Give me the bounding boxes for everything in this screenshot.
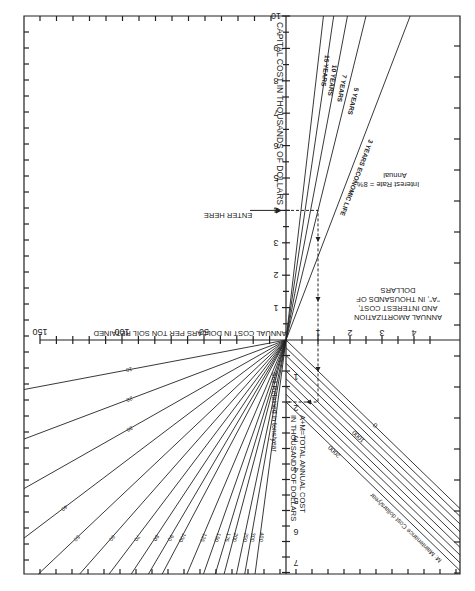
interest-rate-label: Annual bbox=[383, 171, 407, 180]
total-tick-label: 1 bbox=[293, 372, 298, 382]
interest-rate-label: Interest Rate = 8% bbox=[357, 180, 420, 189]
soil-retained-line bbox=[24, 340, 286, 390]
amort-tick-label: 3 bbox=[379, 328, 384, 338]
maintenance-line bbox=[286, 394, 460, 563]
economic-life-label: 5 YEARS bbox=[347, 87, 361, 116]
maintenance-line bbox=[286, 379, 460, 548]
total-tick-label: 6 bbox=[293, 527, 298, 537]
amort-tick-label: 4 bbox=[411, 328, 416, 338]
nomograph-chart: 1234567891012341234567501001503 YEARS EC… bbox=[0, 0, 475, 591]
economic-life-label: 7 YEARS bbox=[336, 74, 348, 103]
total-cost-axis-title: IN THOUSANDS OF DOLLARS bbox=[289, 415, 298, 521]
soil-retained-label: 175 bbox=[224, 532, 232, 543]
maintenance-line bbox=[286, 348, 460, 517]
capital-tick-label: 10 bbox=[271, 11, 281, 21]
soil-retained-axis-label: Soil Retained in tons/year bbox=[270, 372, 278, 452]
capital-tick-label: 2 bbox=[273, 270, 278, 280]
soil-retained-label: 150 bbox=[213, 532, 222, 543]
cost-per-ton-axis-title: ANNUAL COST IN DOLLARS PER TON SOIL RETA… bbox=[93, 329, 287, 338]
maintenance-line bbox=[286, 387, 460, 556]
amortization-axis-title: AND INTEREST COST, bbox=[358, 304, 437, 313]
amortization-axis-title: DOLLARS bbox=[380, 286, 415, 295]
amort-tick-label: 2 bbox=[347, 328, 352, 338]
capital-tick-label: 3 bbox=[273, 238, 278, 248]
maintenance-line bbox=[286, 340, 460, 509]
economic-life-label: 3 YEARS ECONOMIC LIFE bbox=[339, 139, 375, 218]
maintenance-line bbox=[286, 363, 460, 532]
soil-retained-line bbox=[24, 340, 286, 439]
soil-retained-label: 20 bbox=[126, 395, 134, 403]
chart-labels: 1234567891012341234567501001503 YEARS EC… bbox=[32, 11, 443, 568]
cost-tick-label: 150 bbox=[32, 327, 47, 337]
total-tick-label: 2 bbox=[293, 403, 298, 413]
amortization-axis-title: "A", IN THOUSANDS OF bbox=[356, 295, 440, 304]
maintenance-value-label: 1000 bbox=[350, 429, 366, 444]
enter-here-label: ENTER HERE bbox=[204, 211, 252, 220]
soil-retained-label: 400 bbox=[258, 532, 265, 542]
soil-retained-label: 250 bbox=[242, 532, 250, 542]
total-cost-axis-title: A+M=TOTAL ANNUAL COST bbox=[298, 415, 307, 513]
soil-retained-label: 10 bbox=[126, 366, 133, 373]
capital-cost-axis-title: CAPITAL COST IN THOUSANDS OF DOLLARS bbox=[275, 22, 285, 205]
amortization-axis-title: ANNUAL AMORTIZATION bbox=[354, 313, 442, 322]
total-tick-label: 7 bbox=[293, 558, 298, 568]
soil-retained-label: 30 bbox=[126, 425, 134, 433]
capital-tick-label: 1 bbox=[273, 303, 278, 313]
maintenance-line bbox=[286, 371, 460, 540]
